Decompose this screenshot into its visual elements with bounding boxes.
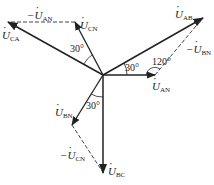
phasor-diagram: UCA −UAN UCN UAB −UBN UAN UBN −UCN UBC 3…	[0, 0, 214, 185]
angle-label-an-ab: 30°	[125, 63, 139, 73]
label-neg-u-bn: −UBN	[186, 44, 211, 57]
phasor-canvas	[0, 0, 214, 185]
arc-30-bn-bc	[91, 94, 103, 97]
label-u-ca: UCA	[2, 30, 20, 43]
label-u-cn: UCN	[80, 20, 98, 33]
label-neg-u-cn: −UCN	[60, 150, 85, 163]
angle-label-an-negbn: 120°	[152, 57, 171, 67]
label-u-bc: UBC	[108, 166, 125, 179]
dashed-neg-u-cn	[72, 125, 102, 171]
angle-label-ca-cn: 30°	[70, 44, 84, 54]
label-neg-u-an: −UAN	[27, 10, 53, 23]
label-u-bn: UBN	[55, 107, 73, 120]
angle-label-bn-bc: 30°	[86, 101, 100, 111]
arc-30-ca-cn	[84, 55, 92, 64]
label-u-ab: UAB	[175, 9, 193, 22]
label-u-an: UAN	[152, 81, 170, 94]
